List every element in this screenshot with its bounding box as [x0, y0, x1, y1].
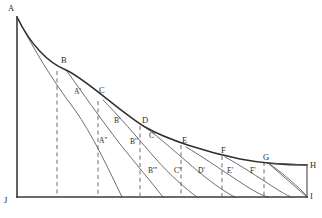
label-point-c-prime: C': [149, 132, 155, 140]
label-point-i: I: [310, 192, 313, 201]
label-point-e: E: [182, 136, 187, 145]
label-point-g: G: [263, 153, 269, 162]
label-point-h: H: [310, 161, 316, 170]
curve-family-diagram: [0, 0, 322, 218]
label-point-a: A: [8, 4, 14, 13]
label-point-c-double-prime: C'': [174, 167, 182, 175]
label-point-f: F: [221, 146, 226, 155]
label-point-e-prime: E': [227, 167, 233, 175]
label-point-a-double-prime: A'': [99, 137, 107, 145]
envelope-curve: [17, 17, 307, 165]
family-chord-g-to-i: [268, 163, 307, 197]
family-curve-from-c: [103, 100, 197, 197]
label-point-b-triple-prime: B''': [148, 167, 157, 175]
label-point-c: C: [99, 86, 105, 95]
label-point-d: D: [142, 116, 148, 125]
label-point-j: J: [4, 196, 7, 205]
label-point-a-prime: A': [74, 88, 81, 96]
label-point-d-prime: D': [198, 167, 205, 175]
figure-root: A J I H B C D E F G A' A'' B' B'' B''' C…: [0, 0, 322, 218]
label-point-b-double-prime: B'': [130, 138, 138, 146]
label-point-b-prime: B': [114, 117, 120, 125]
family-curve-from-f: [225, 157, 291, 197]
label-point-f-prime: F': [250, 167, 256, 175]
label-point-b: B: [61, 56, 67, 65]
